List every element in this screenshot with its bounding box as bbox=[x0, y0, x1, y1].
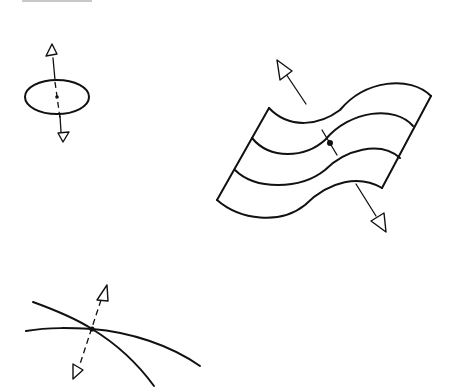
surface-left-edge bbox=[217, 108, 269, 200]
surface-top-curve bbox=[269, 83, 431, 123]
intersecting-curves-figure bbox=[26, 285, 200, 386]
surface-normal-up-line bbox=[286, 74, 306, 104]
curve-a bbox=[33, 302, 154, 386]
disk-normal-down-line bbox=[60, 116, 61, 132]
curves-intersection-point bbox=[89, 326, 94, 331]
surface-normal-down-line bbox=[356, 184, 376, 216]
disk-normal-up-line bbox=[53, 58, 55, 80]
curve-b bbox=[26, 328, 200, 366]
surface-right-edge bbox=[382, 96, 431, 188]
disk-center-point bbox=[55, 95, 59, 99]
diagram-canvas bbox=[0, 0, 455, 392]
disk-up-arrow-icon bbox=[46, 44, 57, 56]
surface-up-arrow-icon bbox=[277, 60, 292, 80]
curves-down-arrow-icon bbox=[73, 364, 83, 379]
surface-point bbox=[327, 140, 333, 146]
disk-down-arrow-icon bbox=[58, 132, 69, 142]
curves-up-arrow-icon bbox=[97, 285, 108, 301]
surface-grid-curve-2 bbox=[235, 149, 400, 185]
wavy-surface-figure bbox=[217, 60, 431, 232]
disk-normal-dashed-line bbox=[55, 82, 60, 118]
disk-figure bbox=[25, 44, 89, 142]
surface-down-arrow-icon bbox=[371, 213, 386, 232]
